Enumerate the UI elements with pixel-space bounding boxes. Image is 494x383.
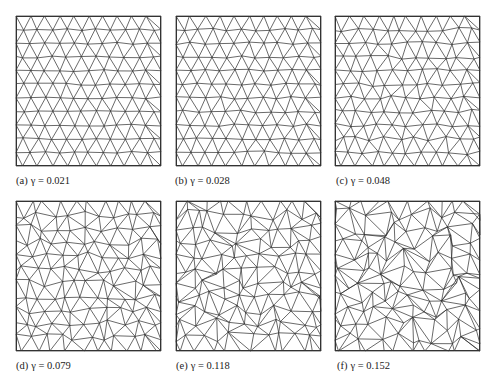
caption-label: (e) — [176, 360, 188, 371]
caption-c: (c)γ = 0.048 — [336, 175, 390, 186]
triangular-mesh-b — [176, 16, 321, 166]
caption-text: γ = 0.152 — [351, 360, 390, 371]
caption-d: (d)γ = 0.079 — [16, 360, 71, 371]
caption-text: γ = 0.028 — [190, 175, 229, 186]
triangular-mesh-a — [16, 16, 161, 166]
caption-b: (b)γ = 0.028 — [175, 175, 230, 186]
caption-e: (e)γ = 0.118 — [176, 360, 230, 371]
caption-label: (f) — [337, 360, 348, 371]
caption-label: (d) — [16, 360, 28, 371]
triangular-mesh-c — [335, 16, 480, 166]
caption-label: (a) — [16, 175, 28, 186]
triangular-mesh-f — [335, 201, 480, 351]
triangular-mesh-e — [176, 201, 321, 351]
triangular-mesh-d — [16, 201, 161, 351]
caption-text: γ = 0.048 — [351, 175, 390, 186]
caption-label: (c) — [336, 175, 348, 186]
caption-text: γ = 0.021 — [31, 175, 70, 186]
caption-label: (b) — [175, 175, 187, 186]
caption-f: (f)γ = 0.152 — [337, 360, 390, 371]
caption-a: (a)γ = 0.021 — [16, 175, 70, 186]
caption-text: γ = 0.118 — [191, 360, 230, 371]
caption-text: γ = 0.079 — [31, 360, 70, 371]
